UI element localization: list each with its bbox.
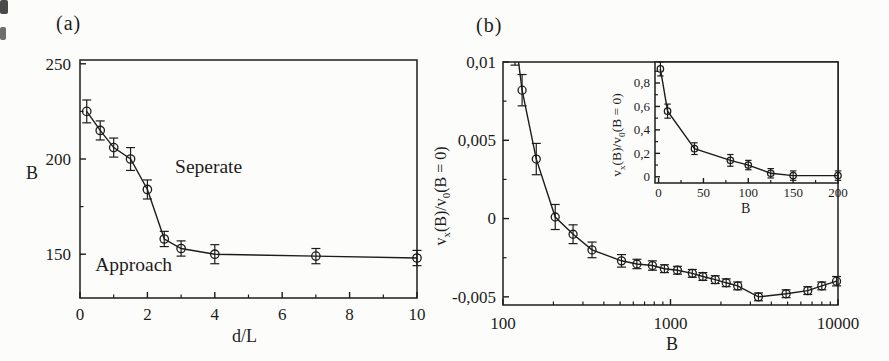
y-tick-label: 0,2 <box>634 146 650 161</box>
ylabel-subscript: x <box>617 165 627 170</box>
y-tick-label: 200 <box>46 150 72 169</box>
panel-b-x-axis-label: B <box>666 334 678 355</box>
ylabel-text: v <box>609 170 624 177</box>
inset-y-axis-label: vx(B)/v0(B = 0) <box>609 93 627 177</box>
x-tick-label: 1000 <box>654 314 688 333</box>
y-tick-label: -0,005 <box>452 288 496 307</box>
panel-a-x-axis-label: d/L <box>232 326 257 347</box>
inset-x-axis-label: B <box>741 201 750 217</box>
x-tick-label: 6 <box>278 305 287 324</box>
x-tick-label: 0 <box>76 305 85 324</box>
annotation-approach: Approach <box>95 254 172 275</box>
y-tick-label: 0,6 <box>634 99 651 114</box>
x-tick-label: 0 <box>655 185 662 200</box>
x-tick-label: 8 <box>345 305 354 324</box>
panel-a-tag: (a) <box>56 12 81 35</box>
x-tick-label: 10 <box>409 305 426 324</box>
ylabel-text: (B = 0) <box>432 146 449 192</box>
panel-a-plot: 0246810150200250SeperateApproach <box>46 55 426 324</box>
y-tick-label: 0,01 <box>466 53 496 72</box>
figure: 0246810150200250SeperateApproach10010001… <box>0 0 889 361</box>
y-tick-label: 0 <box>644 169 651 184</box>
x-tick-label: 10000 <box>817 314 860 333</box>
ylabel-subscript: 0 <box>440 193 452 198</box>
y-tick-label: 0,4 <box>634 122 651 137</box>
y-tick-label: 0,005 <box>458 131 496 150</box>
ylabel-text: (B = 0) <box>609 93 624 132</box>
panel-b-inset-plot: 05010015020000,20,40,60,8 <box>634 62 848 200</box>
data-point <box>511 30 519 38</box>
ylabel-subscript: 0 <box>617 132 627 137</box>
annotation-seperate: Seperate <box>175 156 242 177</box>
panel-b-y-axis-label: vx(B)/v0(B = 0) <box>432 146 452 245</box>
y-tick-label: 250 <box>46 55 72 74</box>
x-tick-label: 100 <box>739 185 759 200</box>
x-tick-label: 150 <box>783 185 803 200</box>
x-tick-label: 200 <box>828 185 848 200</box>
x-tick-label: 2 <box>143 305 152 324</box>
ylabel-text: v <box>432 238 449 246</box>
panel-b-tag: (b) <box>476 14 502 37</box>
x-tick-label: 50 <box>697 185 710 200</box>
error-bar <box>511 3 520 66</box>
ylabel-text: (B)/v <box>432 198 449 232</box>
x-tick-label: 100 <box>490 314 516 333</box>
panel-a-y-axis-label: B <box>26 163 38 184</box>
ylabel-text: (B)/v <box>609 137 624 166</box>
y-tick-label: 0 <box>488 209 497 228</box>
ylabel-subscript: x <box>440 232 452 237</box>
x-tick-label: 4 <box>211 305 220 324</box>
y-tick-label: 150 <box>46 245 72 264</box>
y-tick-label: 0,8 <box>634 75 650 90</box>
